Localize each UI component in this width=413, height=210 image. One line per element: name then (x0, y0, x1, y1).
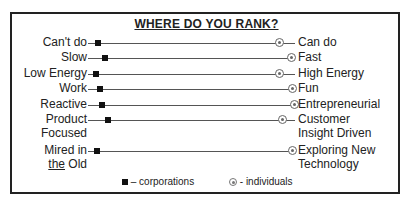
scale-line (88, 58, 295, 59)
right-label: High Energy (298, 66, 364, 80)
left-label: Reactive (40, 97, 87, 111)
corporation-marker-icon (94, 148, 100, 154)
corporation-marker-icon (95, 40, 101, 46)
right-label: Fast (298, 50, 321, 64)
corporation-marker-icon (102, 55, 108, 61)
individual-marker-icon (278, 115, 287, 124)
legend-individuals: - individuals (229, 176, 293, 187)
individual-marker-icon (288, 146, 297, 155)
legend-corporations-label: – corporations (131, 176, 194, 187)
right-label: Can do (298, 35, 337, 49)
scale-line (88, 151, 295, 152)
square-marker-icon (122, 179, 128, 185)
individual-marker-icon (287, 53, 296, 62)
rank-row: ProductFocusedCustomerInsight Driven (0, 120, 413, 136)
corporation-marker-icon (99, 102, 105, 108)
circle-marker-icon (229, 178, 237, 186)
scale-line (88, 120, 295, 121)
left-label: Low Energy (24, 66, 87, 80)
right-label: Exploring NewTechnology (298, 143, 375, 171)
individual-marker-icon (275, 69, 284, 78)
scale-line (88, 105, 295, 106)
left-label: ProductFocused (41, 112, 87, 140)
left-label: Can't do (43, 35, 87, 49)
page-title: WHERE DO YOU RANK? (0, 17, 413, 31)
corporation-marker-icon (105, 117, 111, 123)
right-label: CustomerInsight Driven (298, 112, 371, 140)
legend-corporations: – corporations (122, 176, 194, 187)
left-label: Slow (61, 50, 87, 64)
corporation-marker-icon (93, 71, 99, 77)
rank-row: Mired inthe OldExploring NewTechnology (0, 151, 413, 167)
corporation-marker-icon (97, 86, 103, 92)
scale-line (88, 43, 295, 44)
individual-marker-icon (288, 84, 297, 93)
individual-marker-icon (275, 38, 284, 47)
scale-line (88, 89, 295, 90)
legend-individuals-label: - individuals (240, 176, 293, 187)
right-label: Fun (298, 81, 319, 95)
right-label: Entrepreneurial (298, 97, 380, 111)
left-label: Work (59, 81, 87, 95)
left-label: Mired inthe Old (44, 143, 87, 171)
scale-line (88, 74, 295, 75)
